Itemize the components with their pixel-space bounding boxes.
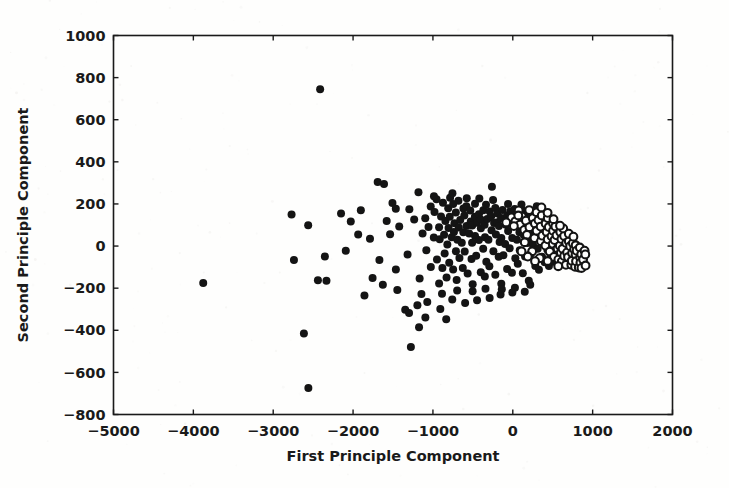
- data-point: [482, 201, 490, 209]
- data-point: [519, 269, 527, 277]
- data-point: [449, 266, 457, 274]
- data-point: [405, 205, 413, 213]
- x-tick-label: 1000: [572, 423, 612, 439]
- data-point: [369, 274, 377, 282]
- data-point: [342, 247, 350, 255]
- data-point: [475, 195, 483, 203]
- x-axis-label: First Principle Component: [287, 448, 500, 464]
- data-point: [452, 247, 460, 255]
- data-point: [357, 206, 365, 214]
- plot-canvas: −5000−4000−3000−2000−1000010002000−800−6…: [0, 0, 729, 488]
- data-point: [423, 298, 431, 306]
- data-point: [550, 215, 558, 223]
- data-point: [404, 251, 412, 259]
- data-point: [290, 256, 298, 264]
- data-point: [422, 246, 430, 254]
- data-point: [386, 230, 394, 238]
- y-tick-label: 400: [75, 154, 105, 170]
- data-point: [582, 262, 590, 270]
- data-point: [438, 264, 446, 272]
- data-point: [438, 290, 446, 298]
- data-point: [518, 247, 526, 255]
- y-tick-label: 200: [75, 196, 105, 212]
- data-point: [464, 270, 472, 278]
- y-tick-label: 600: [75, 112, 105, 128]
- y-tick-label: −800: [63, 407, 105, 423]
- data-point: [472, 252, 480, 260]
- data-point: [554, 262, 562, 270]
- scatter-plot-figure: −5000−4000−3000−2000−1000010002000−800−6…: [0, 0, 729, 488]
- data-point: [405, 309, 413, 317]
- data-point: [421, 214, 429, 222]
- data-point: [458, 239, 466, 247]
- data-point: [421, 313, 429, 321]
- data-point: [452, 209, 460, 217]
- data-point: [304, 384, 312, 392]
- x-tick-label: 0: [508, 423, 518, 439]
- data-point: [514, 260, 522, 268]
- data-point: [508, 289, 516, 297]
- y-tick-label: −400: [63, 322, 105, 338]
- data-point: [502, 219, 510, 227]
- data-point: [413, 301, 421, 309]
- data-point: [544, 257, 552, 265]
- data-point: [521, 238, 529, 246]
- data-point: [488, 183, 496, 191]
- data-point: [455, 254, 463, 262]
- data-point: [383, 217, 391, 225]
- data-point: [448, 295, 456, 303]
- data-point: [393, 286, 401, 294]
- data-point: [466, 206, 474, 214]
- data-point: [484, 236, 492, 244]
- data-point: [304, 221, 312, 229]
- data-point: [443, 241, 451, 249]
- data-point: [300, 329, 308, 337]
- data-point: [445, 259, 453, 267]
- data-point: [322, 277, 330, 285]
- data-point: [337, 209, 345, 217]
- data-point: [453, 276, 461, 284]
- data-point: [441, 249, 449, 257]
- y-axis-label: Second Principle Component: [15, 107, 31, 342]
- data-point: [425, 223, 433, 231]
- data-point: [448, 189, 456, 197]
- data-point: [435, 223, 443, 231]
- data-point: [521, 288, 529, 296]
- y-tick-label: 0: [95, 238, 105, 254]
- data-point: [395, 223, 403, 231]
- data-point: [514, 212, 522, 220]
- data-point: [504, 200, 512, 208]
- x-tick-label: −4000: [167, 423, 220, 439]
- data-point: [570, 233, 578, 241]
- data-point: [469, 280, 477, 288]
- y-tick-label: 1000: [65, 28, 105, 44]
- data-point: [314, 276, 322, 284]
- data-point: [485, 262, 493, 270]
- data-point: [321, 253, 329, 261]
- data-point: [581, 251, 589, 259]
- data-point: [415, 323, 423, 331]
- data-point: [506, 244, 514, 252]
- data-point: [392, 266, 400, 274]
- data-point: [489, 196, 497, 204]
- data-point: [380, 180, 388, 188]
- data-point: [499, 251, 507, 259]
- data-point: [417, 290, 425, 298]
- x-tick-label: −1000: [407, 423, 460, 439]
- data-point: [491, 271, 499, 279]
- data-point: [461, 248, 469, 256]
- data-point: [360, 292, 368, 300]
- data-point: [535, 266, 543, 274]
- data-point: [454, 197, 462, 205]
- data-point: [433, 256, 441, 264]
- y-tick-label: 800: [75, 70, 105, 86]
- data-point: [453, 286, 461, 294]
- data-point: [526, 281, 534, 289]
- data-point: [469, 287, 477, 295]
- data-point: [199, 279, 207, 287]
- data-point: [419, 230, 427, 238]
- y-tick-label: −200: [63, 280, 105, 296]
- data-point: [430, 192, 438, 200]
- data-point: [510, 222, 518, 230]
- data-point: [443, 274, 451, 282]
